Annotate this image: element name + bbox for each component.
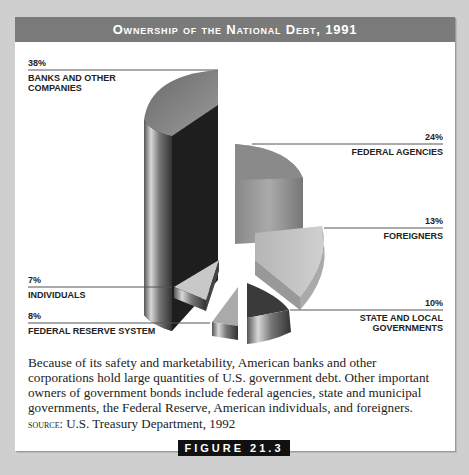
label-state-local: 10% State and Local Governments: [320, 298, 443, 333]
label-foreigners: 13% Foreigners: [330, 216, 443, 241]
label-federal-agencies: 24% Federal Agencies: [300, 132, 443, 157]
label-individuals-name: Individuals: [28, 290, 86, 300]
label-state-local-pct: 10%: [320, 298, 443, 308]
label-federal-agencies-name: Federal Agencies: [300, 147, 443, 157]
label-individuals: 7% Individuals: [28, 275, 86, 300]
label-banks-name-1: Banks and Other: [28, 73, 116, 83]
figure-caption: Because of its safety and marketability,…: [28, 355, 433, 415]
label-state-local-name-1: State and Local: [320, 313, 443, 323]
figure-number-badge: FIGURE 21.3: [178, 440, 290, 456]
label-banks-pct: 38%: [28, 58, 116, 68]
label-individuals-pct: 7%: [28, 275, 86, 285]
label-banks: 38% Banks and Other Companies: [28, 58, 116, 93]
label-banks-name-2: Companies: [28, 83, 116, 93]
label-foreigners-pct: 13%: [330, 216, 443, 226]
slice-federal-reserve: [212, 287, 238, 340]
label-state-local-name-2: Governments: [320, 323, 443, 333]
label-federal-reserve-name: Federal Reserve System: [28, 326, 155, 336]
slice-federal-agencies: [235, 144, 303, 244]
label-foreigners-name: Foreigners: [330, 231, 443, 241]
label-federal-reserve: 8% Federal Reserve System: [28, 311, 155, 336]
label-federal-agencies-pct: 24%: [300, 132, 443, 142]
figure-source: source: U.S. Treasury Department, 1992: [28, 416, 235, 432]
label-federal-reserve-pct: 8%: [28, 311, 155, 321]
source-label: source:: [28, 417, 63, 431]
source-text: U.S. Treasury Department, 1992: [63, 416, 235, 431]
